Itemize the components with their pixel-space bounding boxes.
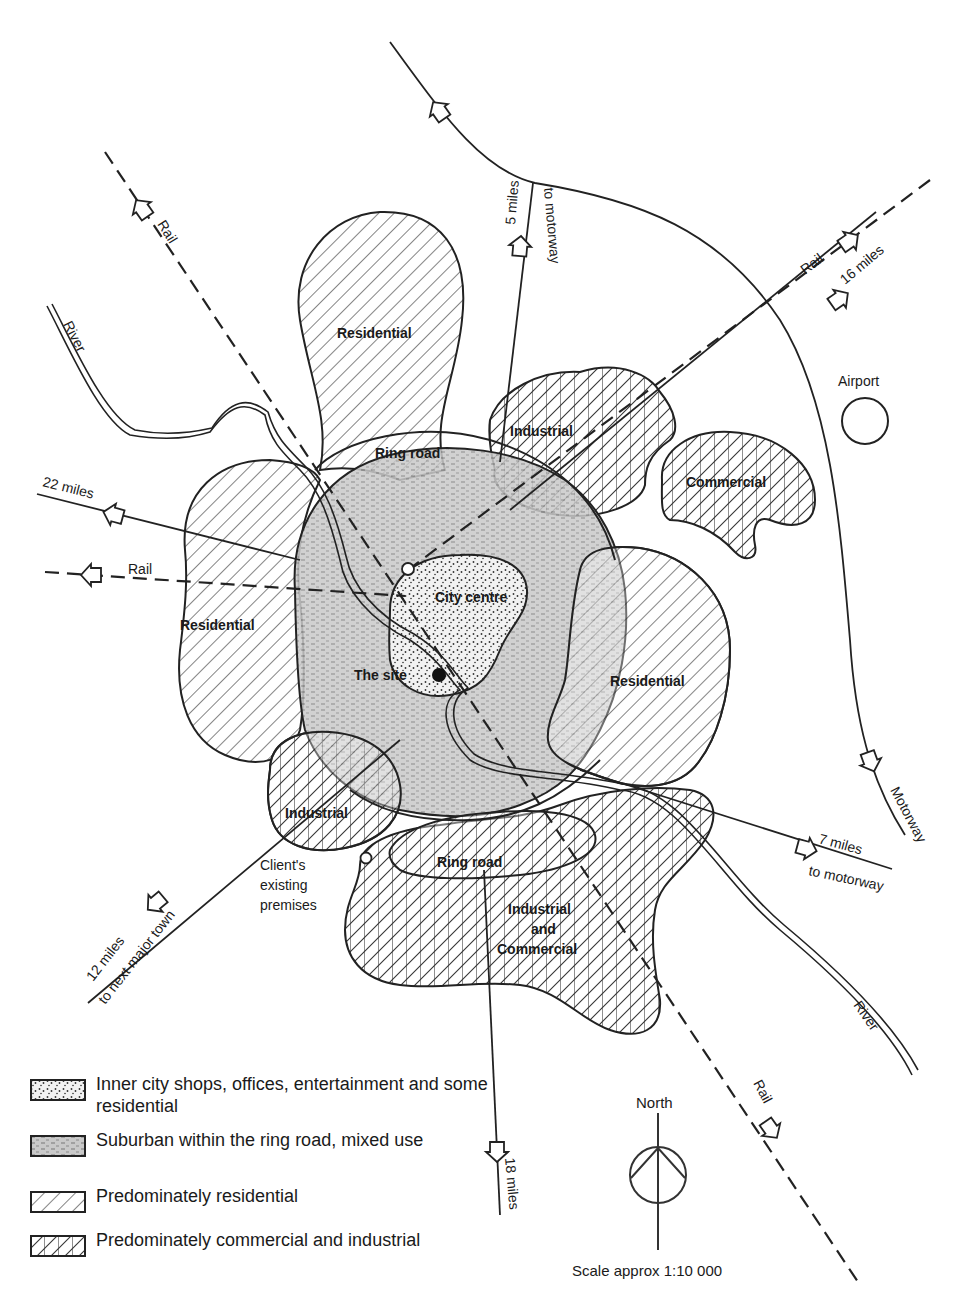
north-compass-icon xyxy=(630,1113,686,1250)
label-road-north-dest: to motorway xyxy=(541,187,564,264)
crosshatch-swatch-icon xyxy=(30,1235,86,1257)
label-residential-east: Residential xyxy=(610,673,685,689)
legend-text: Inner city shops, offices, entertainment… xyxy=(96,1073,496,1117)
label-industrial-commercial-1: Industrial xyxy=(508,901,571,917)
label-ring-road-south: Ring road xyxy=(437,854,502,870)
arrow-rail-west-icon xyxy=(81,564,101,586)
legend-item-inner-city: Inner city shops, offices, entertainment… xyxy=(30,1073,510,1129)
arrow-road-west-icon xyxy=(101,501,126,527)
label-client-2: existing xyxy=(260,877,307,893)
arrow-rail-se-icon xyxy=(756,1115,785,1144)
label-client-3: premises xyxy=(260,897,317,913)
label-river-se: River xyxy=(851,998,883,1034)
legend-item-residential: Predominately residential xyxy=(30,1185,510,1229)
label-industrial-commercial-2: and xyxy=(531,921,556,937)
label-rail-se: Rail xyxy=(750,1077,775,1106)
label-river-nw: River xyxy=(60,318,89,355)
scale-label: Scale approx 1:10 000 xyxy=(572,1262,722,1279)
label-ring-road-north: Ring road xyxy=(375,445,440,461)
label-rail-nw: Rail xyxy=(154,217,180,246)
label-client-1: Client's xyxy=(260,857,305,873)
legend: Inner city shops, offices, entertainment… xyxy=(30,1073,510,1285)
site-marker-icon xyxy=(432,668,446,682)
label-residential-west: Residential xyxy=(180,617,255,633)
arrow-north-road-icon xyxy=(508,235,532,257)
arrow-road-east-icon xyxy=(794,835,819,861)
label-road-north-distance: 5 miles xyxy=(502,180,522,226)
label-industrial-southwest: Industrial xyxy=(285,805,348,821)
label-airport: Airport xyxy=(838,373,879,389)
label-residential-north: Residential xyxy=(337,325,412,341)
stipple-swatch-icon xyxy=(30,1079,86,1101)
grey-swatch-icon xyxy=(30,1135,86,1157)
label-industrial-northeast: Industrial xyxy=(510,423,573,439)
zone-residential-north xyxy=(298,212,463,480)
label-rail-west: Rail xyxy=(128,561,152,577)
legend-text: Predominately commercial and industrial xyxy=(96,1229,496,1251)
arrow-rail-ne-icon xyxy=(835,226,864,255)
compass-label: North xyxy=(636,1094,673,1111)
label-road-east-dest: to motorway xyxy=(807,862,885,894)
label-commercial-east: Commercial xyxy=(686,474,766,490)
arrow-road-ne-icon xyxy=(825,284,854,313)
airport-icon xyxy=(842,398,888,444)
arrow-rail-nw-icon xyxy=(127,194,156,223)
legend-text: Predominately residential xyxy=(96,1185,496,1207)
arrow-motorway-south-icon xyxy=(857,749,885,775)
label-the-site: The site xyxy=(354,667,407,683)
diagonal-swatch-icon xyxy=(30,1191,86,1213)
legend-item-suburban: Suburban within the ring road, mixed use xyxy=(30,1129,510,1185)
station-marker-icon xyxy=(402,563,414,575)
client-premises-marker-icon xyxy=(361,853,372,864)
label-industrial-commercial-3: Commercial xyxy=(497,941,577,957)
legend-item-commercial: Predominately commercial and industrial xyxy=(30,1229,510,1285)
label-city-centre: City centre xyxy=(435,589,508,605)
legend-text: Suburban within the ring road, mixed use xyxy=(96,1129,496,1151)
zone-commercial-east xyxy=(662,432,815,558)
